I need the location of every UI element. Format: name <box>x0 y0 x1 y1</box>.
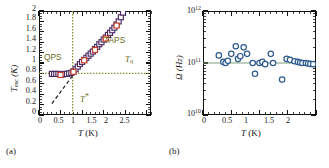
panel-b-graphics <box>165 0 329 168</box>
panel-b-yaxis-symbol: Ω <box>174 73 184 80</box>
panel-b-ytick-1e12: 1012 <box>171 6 201 15</box>
panel-b-xtick-2: 2 <box>284 117 292 125</box>
panel-b-ytick-1e11-exp: 11 <box>195 57 201 63</box>
annotation-tstar: T* <box>80 92 89 104</box>
panel-a-yaxis-unit: (K) <box>9 65 19 77</box>
panel-a-xtick-15: 1.5 <box>84 117 100 125</box>
panel-b-ytick-1e10-exp: 10 <box>195 108 201 114</box>
panel-b-ytick-1e10-base: 10 <box>187 109 195 118</box>
panel-b-yaxis-title: Ω (Hz) <box>174 55 184 80</box>
annotation-tq: Tq <box>125 54 133 64</box>
panel-a-xtick-0: 0 <box>36 117 44 125</box>
panel-a-ytick-0: 0 <box>20 108 36 116</box>
panel-b-ytick-1e12-base: 10 <box>187 6 195 15</box>
panel-a-xtick-1: 1 <box>69 117 77 125</box>
panel-a-xtick-2: 2 <box>102 117 110 125</box>
panel-b-xtick-0: 0 <box>200 117 208 125</box>
panel-a-xtick-05: 0.5 <box>51 117 67 125</box>
panel-b-tag: (b) <box>169 146 180 156</box>
panel-a-ytick-12: 1.2 <box>14 46 36 54</box>
panel-a-xaxis-unit: (K) <box>85 128 98 138</box>
panel-a-ytick-1: 1 <box>20 56 36 64</box>
annotation-taps: TAPS <box>104 35 125 45</box>
panel-a-ytick-2: 2 <box>20 5 36 13</box>
panel-a-xtick-25: 2.5 <box>117 117 133 125</box>
annotation-qps: QPS <box>44 52 62 62</box>
two-panel-figure: 0 0.2 0.4 0.6 0.8 1 1.2 1.4 1.6 1.8 2 0 … <box>0 0 329 168</box>
panel-b-xtick-05: 0.5 <box>219 117 235 125</box>
panel-a-yaxis-symbol: T <box>9 87 19 92</box>
panel-a-xaxis-title: T (K) <box>78 128 98 138</box>
panel-a-ytick-02: 0.2 <box>14 98 36 106</box>
panel-b: 1012 1011 1010 0 0.5 1 1.5 2 T (K) Ω (Hz… <box>165 0 329 168</box>
panel-a-tag: (a) <box>6 146 16 156</box>
panel-b-ytick-1e10: 1010 <box>171 109 201 118</box>
panel-b-ytick-1e12-exp: 12 <box>195 5 201 11</box>
panel-a-ytick-16: 1.6 <box>14 25 36 33</box>
panel-a-ytick-18: 1.8 <box>14 14 36 22</box>
panel-b-xaxis-title: T (K) <box>241 128 261 138</box>
panel-a-yaxis-title: Tesc (K) <box>9 65 19 92</box>
panel-a-ticks <box>39 11 151 115</box>
annotation-tq-subscript: q <box>130 57 133 64</box>
panel-b-xaxis-unit: (K) <box>248 128 261 138</box>
panel-a-ytick-14: 1.4 <box>14 35 36 43</box>
panel-a: 0 0.2 0.4 0.6 0.8 1 1.2 1.4 1.6 1.8 2 0 … <box>0 0 165 168</box>
panel-b-yaxis-unit: (Hz) <box>174 55 184 71</box>
panel-b-xtick-15: 1.5 <box>261 117 277 125</box>
annotation-tstar-mark: * <box>85 92 89 101</box>
panel-a-yaxis-subscript: esc <box>12 79 19 87</box>
panel-b-xtick-1: 1 <box>242 117 250 125</box>
panel-a-guide-lines <box>39 11 151 115</box>
